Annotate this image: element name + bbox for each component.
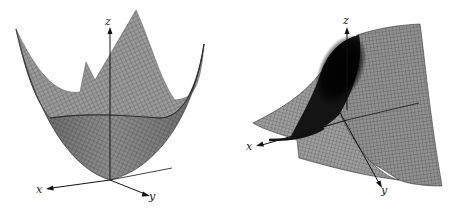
z-axis-label: z [104, 15, 111, 28]
x-axis-label: x [246, 140, 253, 153]
paraboloid-plot: z x y [0, 0, 230, 210]
y-axis-label: y [148, 190, 156, 203]
z-axis-arrowhead [345, 27, 350, 34]
y-axis [110, 180, 145, 194]
z-axis-arrowhead [108, 27, 113, 34]
x-axis-arrowhead [256, 142, 264, 147]
y-axis-label: y [380, 184, 388, 197]
x-axis-arrowhead [46, 186, 54, 191]
x-axis [52, 180, 110, 188]
x-axis-label: x [36, 183, 43, 196]
saddle-plot: z x y [229, 0, 459, 210]
paraboloid-figure: z x y [0, 0, 230, 210]
saddle-figure: z x y [229, 0, 459, 210]
z-axis-label: z [342, 14, 349, 27]
